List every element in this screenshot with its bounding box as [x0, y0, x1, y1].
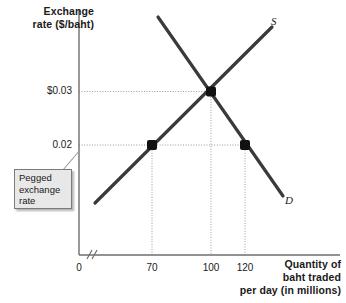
x-tick-label-70: 70 — [132, 262, 172, 273]
y-tick-label-002: 0.02 — [10, 139, 72, 150]
marker-quantity-demanded — [240, 140, 250, 150]
marker-equilibrium — [206, 87, 216, 97]
x-axis-title-line1: Quantity of — [284, 258, 341, 270]
x-axis-title-line2: baht traded — [283, 271, 341, 283]
y-axis-title-line2: rate ($/baht) — [33, 18, 94, 30]
y-tick-label-003: $0.03 — [10, 85, 72, 96]
x-tick-label-120: 120 — [225, 262, 265, 273]
y-axis-title: Exchangerate ($/baht) — [8, 5, 94, 31]
y-axis-title-line1: Exchange — [44, 5, 94, 17]
pegged-exchange-rate-callout-text: Pegged exchange rate — [19, 172, 75, 207]
x-tick-label-0: 0 — [59, 262, 99, 273]
x-axis-title-line3: per day (in millions) — [240, 284, 341, 296]
callout-leader-line — [63, 150, 80, 170]
marker-quantity-supplied — [147, 140, 157, 150]
demand-curve — [158, 17, 283, 196]
exchange-rate-supply-demand-figure: Exchangerate ($/baht) Quantity ofbaht tr… — [0, 0, 346, 303]
supply-curve-label: S — [271, 15, 277, 27]
demand-curve-label: D — [285, 194, 293, 206]
